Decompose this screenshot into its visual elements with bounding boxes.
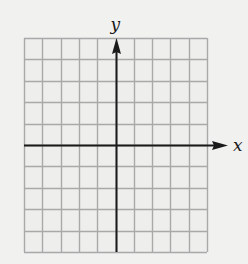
x-axis-label: x <box>233 135 243 155</box>
coordinate-plane: x y <box>0 0 248 264</box>
y-axis-label: y <box>110 14 121 34</box>
